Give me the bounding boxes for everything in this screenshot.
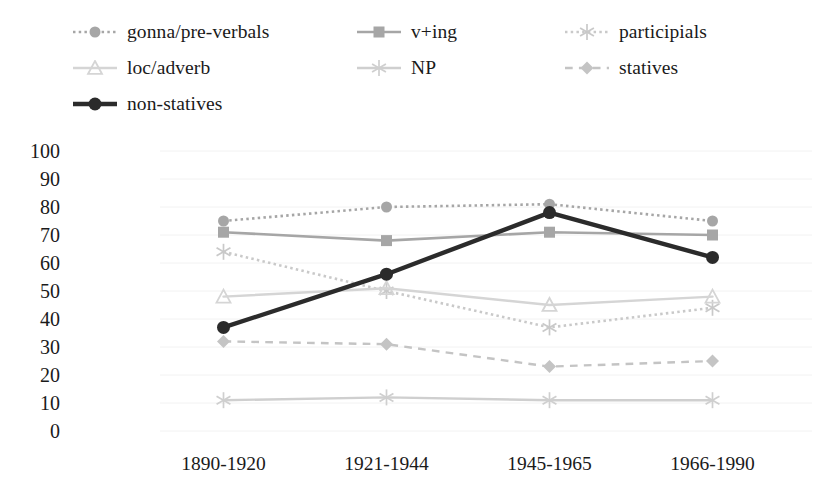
data-point-marker-circle (218, 216, 229, 227)
series-layer (217, 199, 720, 409)
data-point-marker-circle (543, 206, 556, 219)
data-point-marker-diamond (380, 338, 393, 351)
data-point-marker-circle (380, 268, 393, 281)
chart-plot-area (0, 0, 832, 501)
series-statives (217, 335, 719, 373)
x-tick-label: 1945-1965 (507, 454, 592, 474)
data-point-marker-circle (706, 251, 719, 264)
data-point-marker-circle (217, 321, 230, 334)
series-gonna-pre-verbals (218, 199, 718, 227)
data-point-marker-diamond (217, 335, 230, 348)
series-line (224, 341, 713, 366)
series-np (217, 389, 720, 408)
series-participials (217, 244, 720, 336)
data-point-marker-asterisk (217, 244, 231, 260)
series-non-statives (217, 206, 719, 334)
data-point-marker-diamond (543, 360, 556, 373)
series-line (224, 397, 713, 400)
data-point-marker-square (707, 230, 718, 241)
data-point-marker-square (218, 227, 229, 238)
x-tick-label: 1890-1920 (181, 454, 266, 474)
x-tick-label: 1966-1990 (670, 454, 755, 474)
x-tick-label: 1921-1944 (344, 454, 429, 474)
data-point-marker-square (544, 227, 555, 238)
data-point-marker-diamond (706, 355, 719, 368)
data-point-marker-circle (381, 202, 392, 213)
data-point-marker-square (381, 235, 392, 246)
data-point-marker-circle (707, 216, 718, 227)
